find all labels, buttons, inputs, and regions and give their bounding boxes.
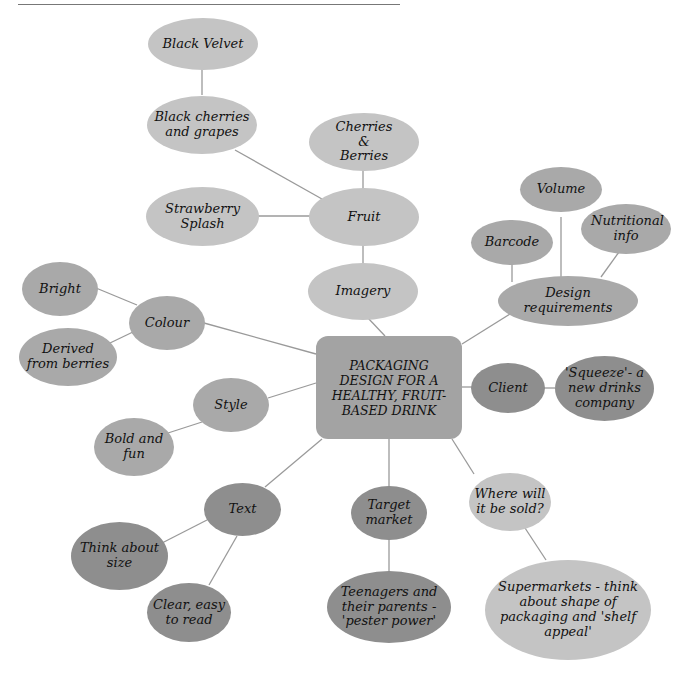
node-cherries-berries: Cherries & Berries (309, 113, 419, 171)
node-imagery: Imagery (308, 263, 418, 320)
node-design-requirements: Design requirements (498, 276, 638, 326)
node-style: Style (193, 378, 269, 432)
node-fruit: Fruit (309, 188, 419, 246)
node-colour: Colour (129, 296, 205, 350)
node-where-sold: Where will it be sold? (469, 473, 551, 531)
node-teenagers-pester-power: Teenagers and their parents - 'pester po… (327, 571, 451, 643)
node-volume: Volume (520, 167, 602, 212)
central-topic: PACKAGING DESIGN FOR A HEALTHY, FRUIT-BA… (316, 336, 462, 439)
node-target-market: Target market (351, 486, 427, 540)
node-derived-from-berries: Derived from berries (19, 328, 117, 386)
node-client: Client (471, 363, 545, 413)
node-bold-and-fun: Bold and fun (94, 418, 174, 476)
node-text: Text (204, 483, 281, 536)
node-barcode: Barcode (471, 220, 553, 265)
node-strawberry-splash: Strawberry Splash (146, 187, 259, 246)
node-bright: Bright (22, 262, 98, 316)
node-black-velvet: Black Velvet (148, 18, 258, 70)
node-squeeze-company: 'Squeeze'- a new drinks company (555, 356, 654, 421)
node-nutritional-info: Nutritional info (581, 204, 671, 254)
node-black-cherries-and-grapes: Black cherries and grapes (147, 96, 257, 154)
node-clear-easy-to-read: Clear, easy to read (147, 583, 231, 642)
node-supermarkets: Supermarkets - think about shape of pack… (485, 560, 651, 660)
node-think-about-size: Think about size (71, 522, 168, 590)
